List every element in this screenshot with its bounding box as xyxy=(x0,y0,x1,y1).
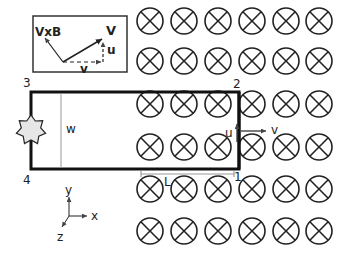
field-into-page-icon xyxy=(273,176,299,202)
field-into-page-icon xyxy=(273,8,299,34)
field-into-page-icon xyxy=(171,8,197,34)
u-label: u xyxy=(225,127,233,139)
field-into-page-icon xyxy=(273,134,299,160)
diagram-canvas: VxB V u v 3 4 2 1 w L u v y x z xyxy=(0,0,354,266)
field-into-page-icon xyxy=(205,91,231,117)
field-into-page-icon xyxy=(137,8,163,34)
field-into-page-icon xyxy=(205,48,231,74)
field-into-page-icon xyxy=(273,48,299,74)
v-label: v xyxy=(271,124,278,136)
field-into-page-icon xyxy=(137,218,163,244)
corner-1-label: 1 xyxy=(234,171,242,183)
field-into-page-icon xyxy=(273,91,299,117)
field-into-page-icon xyxy=(239,134,265,160)
field-into-page-icon xyxy=(137,176,163,202)
inset-v-label: v xyxy=(80,63,88,75)
field-into-page-icon xyxy=(306,48,332,74)
corner-2-label: 2 xyxy=(233,78,241,90)
field-into-page-icon xyxy=(137,134,163,160)
field-into-page-icon xyxy=(137,48,163,74)
field-into-page-icon xyxy=(171,134,197,160)
field-into-page-icon xyxy=(205,176,231,202)
field-into-page-icon xyxy=(239,176,265,202)
field-into-page-icon xyxy=(239,91,265,117)
conducting-loop xyxy=(31,92,239,169)
inset-u-label: u xyxy=(107,44,116,56)
corner-4-label: 4 xyxy=(23,174,31,186)
field-into-page-icon xyxy=(273,218,299,244)
field-into-page-icon xyxy=(205,218,231,244)
field-into-page-icon xyxy=(239,8,265,34)
field-into-page-icon xyxy=(306,218,332,244)
length-label: L xyxy=(164,176,171,188)
axis-z-label: z xyxy=(57,231,63,243)
corner-3-label: 3 xyxy=(23,77,31,89)
axis-x-label: x xyxy=(91,210,98,222)
coordinate-axes xyxy=(62,197,87,227)
field-into-page-icon xyxy=(239,48,265,74)
field-into-page-icon xyxy=(239,218,265,244)
field-into-page-icon xyxy=(306,134,332,160)
field-into-page-icon xyxy=(171,48,197,74)
field-into-page-icon xyxy=(306,176,332,202)
field-into-page-icon xyxy=(137,91,163,117)
inset-vxb-label: VxB xyxy=(35,26,61,38)
diagram-svg xyxy=(0,0,354,266)
field-into-page-icon xyxy=(205,8,231,34)
field-into-page-icon xyxy=(306,8,332,34)
field-into-page-icon xyxy=(171,91,197,117)
inset-V-label: V xyxy=(106,24,116,37)
width-label: w xyxy=(66,123,76,135)
magnetic-field-into-page xyxy=(137,8,332,244)
field-into-page-icon xyxy=(171,218,197,244)
field-into-page-icon xyxy=(171,176,197,202)
field-into-page-icon xyxy=(306,91,332,117)
axis-y-label: y xyxy=(65,184,72,196)
lamp-star-icon xyxy=(16,115,45,144)
